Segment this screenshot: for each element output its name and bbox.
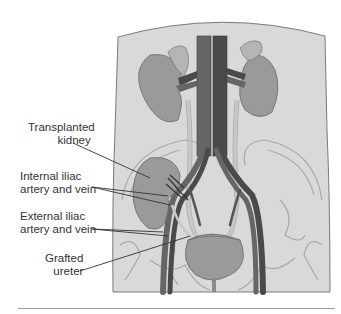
label-transplanted-kidney: Transplanted kidney [28,121,95,147]
label-internal-iliac: Internal iliac artery and vein [20,170,96,196]
urethra [212,278,216,292]
vena-cava [197,36,211,156]
bottom-divider [18,308,335,309]
aorta [213,36,227,156]
native-kidney-right [240,55,278,117]
label-grafted-ureter: Grafted ureter [45,252,83,278]
label-external-iliac: External iliac artery and vein [20,210,96,236]
